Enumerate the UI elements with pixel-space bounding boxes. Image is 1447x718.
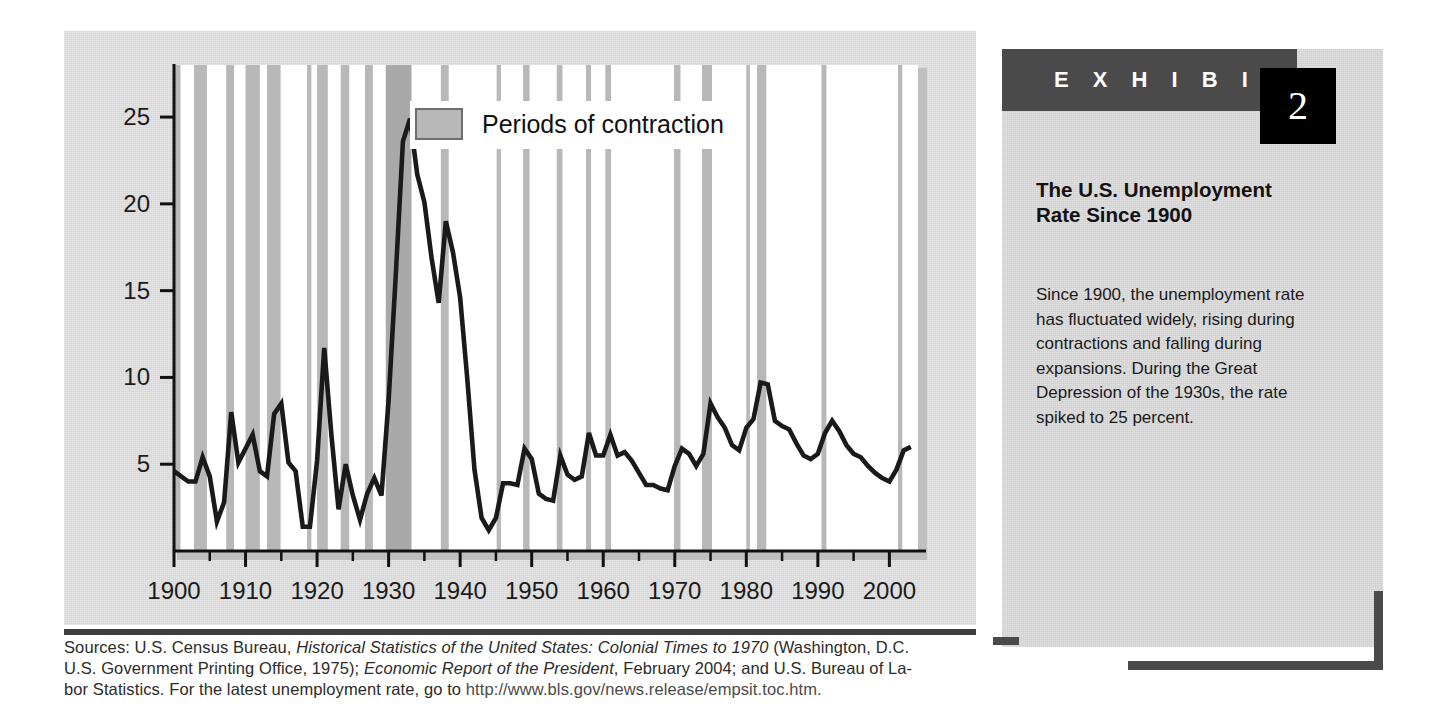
svg-text:1900: 1900	[147, 577, 200, 604]
svg-text:1910: 1910	[219, 577, 272, 604]
figure-block: 5101520251900191019201930194019501960197…	[64, 31, 976, 631]
svg-text:1920: 1920	[290, 577, 343, 604]
svg-text:1930: 1930	[362, 577, 415, 604]
svg-text:2000: 2000	[863, 577, 916, 604]
svg-text:1990: 1990	[791, 577, 844, 604]
bls-url-link[interactable]: http://www.bls.gov/news.release/empsit.t…	[466, 680, 822, 698]
sources-line-2: U.S. Government Printing Office, 1975); …	[64, 658, 994, 679]
sources-note: Sources: U.S. Census Bureau, Historical …	[64, 637, 994, 700]
panel-accent-right	[1374, 591, 1383, 670]
svg-text:1980: 1980	[720, 577, 773, 604]
exhibit-page: 5101520251900191019201930194019501960197…	[0, 0, 1447, 718]
sources-line1-a: Sources: U.S. Census Bureau,	[64, 638, 296, 656]
svg-text:15: 15	[123, 277, 150, 304]
exhibit-number: 2	[1288, 86, 1308, 126]
svg-text:1970: 1970	[648, 577, 701, 604]
svg-text:1960: 1960	[577, 577, 630, 604]
unemployment-line-chart: 5101520251900191019201930194019501960197…	[64, 31, 976, 625]
sources-line1-c: (Washington, D.C.	[769, 638, 910, 656]
panel-accent-left	[993, 637, 1019, 645]
exhibit-body-text: Since 1900, the unemployment rate has fl…	[1036, 283, 1318, 430]
exhibit-header-bar: E X H I B I T	[1002, 49, 1297, 111]
chart-legend: Periods of contraction	[410, 101, 740, 149]
svg-text:1950: 1950	[505, 577, 558, 604]
exhibit-title: The U.S. UnemploymentRate Since 1900	[1036, 177, 1336, 227]
svg-text:20: 20	[123, 190, 150, 217]
sources-line2-title: Economic Report of the President	[364, 659, 614, 677]
exhibit-number-box: 2	[1260, 68, 1336, 144]
svg-text:5: 5	[137, 450, 150, 477]
svg-text:10: 10	[123, 363, 150, 390]
sources-line1-title: Historical Statistics of the United Stat…	[296, 638, 768, 656]
svg-text:1940: 1940	[433, 577, 486, 604]
sources-line3-a: bor Statistics. For the latest unemploym…	[64, 680, 466, 698]
sources-line-1: Sources: U.S. Census Bureau, Historical …	[64, 637, 994, 658]
exhibit-label: E X H I B I T	[1002, 67, 1294, 93]
sources-line-3: bor Statistics. For the latest unemploym…	[64, 679, 994, 700]
sources-line2-a: U.S. Government Printing Office, 1975);	[64, 659, 364, 677]
panel-accent-bottom	[1128, 661, 1383, 670]
svg-text:Periods of contraction: Periods of contraction	[482, 110, 724, 138]
sources-line2-c: , February 2004; and U.S. Bureau of La-	[614, 659, 912, 677]
exhibit-panel: E X H I B I T 2 The U.S. UnemploymentRat…	[1002, 31, 1383, 647]
figure-bottom-rule	[64, 629, 976, 635]
svg-text:25: 25	[123, 103, 150, 130]
